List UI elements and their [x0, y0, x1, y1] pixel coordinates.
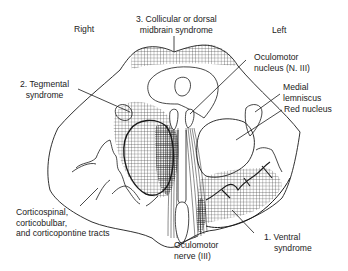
collicular-line1: 3. Collicular or dorsal	[136, 14, 217, 25]
collicular-line2: midbrain syndrome	[136, 25, 217, 36]
corticospinal-line2: corticobulbar,	[16, 218, 110, 229]
left-side-label: Left	[272, 25, 286, 36]
corticospinal-tracts-label: Corticospinal, corticobulbar, and cortic…	[16, 207, 110, 239]
medial-lemniscus-line2: lemniscus	[283, 93, 321, 104]
oculomotor-nerve-label: Oculomotor nerve (III)	[174, 240, 218, 261]
oculomotor-nucleus-line1: Oculomotor	[254, 52, 310, 63]
interpeduncular-fossa	[178, 130, 186, 205]
red-nucleus-left	[197, 119, 255, 177]
oculomotor-nucleus-left	[185, 109, 194, 128]
oculomotor-nucleus-label: Oculomotor nucleus (N. III)	[254, 52, 310, 73]
medial-lemniscus-line1: Medial	[283, 82, 321, 93]
oculomotor-nerve-line1: Oculomotor	[174, 240, 218, 251]
corticospinal-line1: Corticospinal,	[16, 207, 110, 218]
leader-red-nucleus	[236, 110, 282, 140]
ventral-line1: 1. Ventral	[264, 232, 312, 243]
ventral-syndrome-label: 1. Ventral syndrome	[264, 232, 312, 253]
ventral-lesion-zone	[197, 168, 282, 234]
cerebral-aqueduct	[175, 77, 191, 96]
tegmental-syndrome-label: 2. Tegmental syndrome	[20, 79, 69, 100]
oculomotor-nucleus-line2: nucleus (N. III)	[254, 63, 310, 74]
red-nucleus-label: Red nucleus	[284, 104, 332, 115]
leader-corticospinal	[80, 188, 98, 206]
collicular-syndrome-label: 3. Collicular or dorsal midbrain syndrom…	[136, 14, 217, 35]
tegmental-line1: 2. Tegmental	[20, 79, 69, 90]
midbrain-diagram: Right Left 3. Collicular or dorsal midbr…	[0, 0, 348, 271]
medial-lemniscus-label: Medial lemniscus	[283, 82, 321, 103]
ventral-line2: syndrome	[264, 243, 312, 254]
corticospinal-line3: and corticopontine tracts	[16, 228, 110, 239]
right-label-text: Right	[74, 24, 94, 35]
interpeduncular-bottom	[175, 202, 189, 244]
left-label-text: Left	[272, 25, 286, 36]
red-nucleus-line1: Red nucleus	[284, 104, 332, 115]
oculomotor-nerve-line2: nerve (III)	[174, 251, 218, 262]
tegmental-line2: syndrome	[20, 90, 69, 101]
right-side-label: Right	[74, 24, 94, 35]
